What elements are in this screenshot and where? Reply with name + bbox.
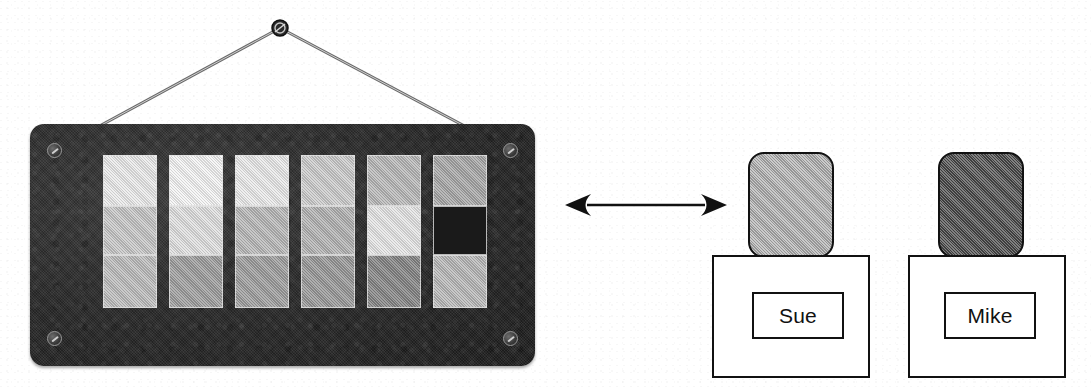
hanging-chart-board[interactable] [30, 124, 535, 366]
grid-cell-c6-r2[interactable] [433, 206, 487, 255]
scene-canvas: Sue Mike [0, 0, 1091, 388]
grid-cell-c4-r1[interactable] [301, 155, 355, 206]
screw-top-left-icon [47, 143, 62, 158]
grid-cell-c2-r3[interactable] [169, 255, 223, 308]
grid-cell-c1-r1[interactable] [103, 155, 157, 206]
name-label-sue: Sue [779, 305, 817, 326]
grid-cell-c1-r2[interactable] [103, 206, 157, 255]
screw-bottom-left-icon [47, 331, 62, 346]
grid-cell-c1-r3[interactable] [103, 255, 157, 308]
grid-column-2 [169, 155, 223, 308]
grid-column-4 [301, 155, 355, 308]
grid-cell-c2-r1[interactable] [169, 155, 223, 206]
grid-cell-c5-r3[interactable] [367, 255, 421, 308]
grid-column-1 [103, 155, 157, 308]
grid-cell-c4-r2[interactable] [301, 206, 355, 255]
grid-cell-c6-r1[interactable] [433, 155, 487, 206]
grid-cell-c4-r3[interactable] [301, 255, 355, 308]
grid-column-3 [235, 155, 289, 308]
grid-column-5 [367, 155, 421, 308]
name-box-mike[interactable]: Mike [944, 292, 1036, 339]
screw-bottom-right-icon [503, 331, 518, 346]
grid-cell-c6-r3[interactable] [433, 255, 487, 308]
head-shape-mike [938, 152, 1024, 258]
grid-column-6 [433, 155, 487, 308]
name-box-sue[interactable]: Sue [752, 292, 844, 339]
grid-cell-c3-r1[interactable] [235, 155, 289, 206]
shade-grid [103, 155, 487, 308]
screw-top-right-icon [503, 143, 518, 158]
hanging-hook-icon [272, 20, 288, 36]
bidirectional-arrow [565, 192, 727, 218]
grid-cell-c3-r3[interactable] [235, 255, 289, 308]
grid-cell-c5-r1[interactable] [367, 155, 421, 206]
grid-cell-c2-r2[interactable] [169, 206, 223, 255]
head-shape-sue [748, 152, 834, 258]
name-label-mike: Mike [967, 305, 1012, 326]
grid-cell-c5-r2[interactable] [367, 206, 421, 255]
grid-cell-c3-r2[interactable] [235, 206, 289, 255]
